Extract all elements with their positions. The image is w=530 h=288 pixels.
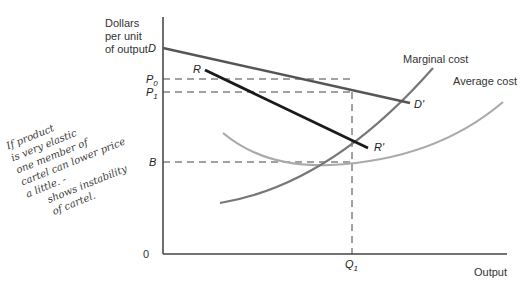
demand-line [163, 48, 410, 103]
d-tick-label: D [148, 42, 156, 54]
b-tick-label: B [149, 156, 156, 168]
cartel-cost-chart: Dollars per unit of output 0 Output D P0… [0, 0, 530, 288]
y-axis-title-line-1: Dollars [105, 17, 140, 29]
d-prime-label: D' [414, 98, 425, 110]
marginal-revenue-line [205, 70, 368, 148]
y-axis-title: Dollars per unit of output [105, 17, 148, 55]
marginal-cost-label: Marginal cost [403, 53, 468, 65]
r-prime-label: R' [374, 141, 385, 153]
r-label: R [193, 63, 201, 75]
average-cost-label: Average cost [453, 75, 517, 87]
q1-tick-label: Q1 [345, 258, 358, 273]
p1-tick-label: P1 [146, 86, 158, 101]
y-axis-title-line-2: per unit [105, 30, 142, 42]
origin-label: 0 [143, 248, 149, 260]
marginal-cost-curve [220, 68, 433, 203]
q1-subscript: 1 [354, 264, 358, 273]
handwritten-note: If product is very elastic one member of… [4, 99, 142, 224]
p1-subscript: 1 [153, 92, 157, 101]
y-axis-title-line-3: of output [105, 43, 148, 55]
average-cost-curve [223, 102, 503, 165]
p0-subscript: 0 [153, 79, 158, 88]
x-axis-title: Output [474, 266, 507, 278]
